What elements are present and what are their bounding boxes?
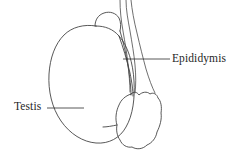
testis-tail-junction [103,125,117,127]
label-testis: Testis [14,101,41,113]
diagram-canvas [0,0,239,162]
spermatic-cord-tube-left [120,0,130,92]
anatomy-diagram: Epididymis Testis [0,0,239,162]
label-epididymis: Epididymis [172,53,226,65]
spermatic-cord-tube-right [131,0,155,93]
epididymis-body-outline [120,31,131,95]
epididymis-tail-outline [116,92,161,149]
